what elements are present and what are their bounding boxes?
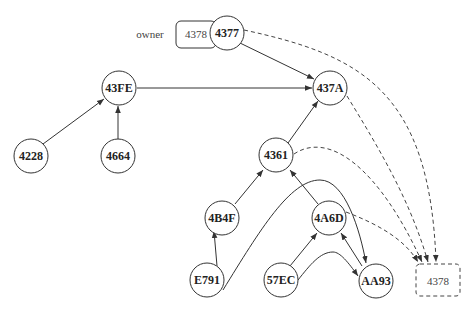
node-4A6D[interactable]: 4A6D: [312, 201, 346, 235]
svg-text:437A: 437A: [317, 81, 344, 95]
edge-4361-4378: [294, 147, 422, 262]
edge-4377-437A: [240, 43, 314, 79]
node-E791[interactable]: E791: [190, 263, 224, 297]
graph-canvas: owner 4378 4377 43FE 437A 4228 4664 4361…: [0, 0, 469, 314]
svg-text:4B4F: 4B4F: [208, 211, 235, 225]
edge-4361-437A: [288, 101, 318, 143]
node-4228[interactable]: 4228: [14, 139, 48, 173]
svg-text:4664: 4664: [106, 149, 130, 163]
svg-text:E791: E791: [194, 273, 220, 287]
node-4361[interactable]: 4361: [259, 138, 293, 172]
node-57EC[interactable]: 57EC: [264, 263, 298, 297]
target-box-label: 4378: [427, 275, 450, 287]
edge-4A6D-4378: [346, 212, 418, 262]
svg-text:43FE: 43FE: [105, 81, 132, 95]
edge-57EC-4A6D: [290, 233, 317, 266]
svg-text:4377: 4377: [215, 26, 239, 40]
edge-E791-4B4F: [214, 231, 217, 266]
owner-label: owner: [136, 28, 164, 40]
svg-text:57EC: 57EC: [267, 273, 296, 287]
node-437A[interactable]: 437A: [313, 71, 347, 105]
svg-text:4228: 4228: [19, 149, 43, 163]
edge-437A-4378: [347, 96, 428, 262]
svg-text:AA93: AA93: [361, 274, 390, 288]
svg-text:4361: 4361: [264, 148, 288, 162]
node-43FE[interactable]: 43FE: [102, 71, 136, 105]
edge-AA93-4A6D: [341, 233, 362, 266]
edge-4B4F-4361: [235, 170, 263, 204]
node-4664[interactable]: 4664: [101, 139, 135, 173]
node-4377[interactable]: 4377: [210, 16, 244, 50]
edge-4228-43FE: [43, 99, 104, 144]
edge-4A6D-4361: [290, 170, 318, 204]
node-AA93[interactable]: AA93: [359, 264, 393, 298]
svg-text:4A6D: 4A6D: [314, 211, 344, 225]
owner-box-label: 4378: [185, 28, 208, 40]
edge-57EC-AA93: [298, 252, 358, 280]
node-4B4F[interactable]: 4B4F: [205, 201, 239, 235]
